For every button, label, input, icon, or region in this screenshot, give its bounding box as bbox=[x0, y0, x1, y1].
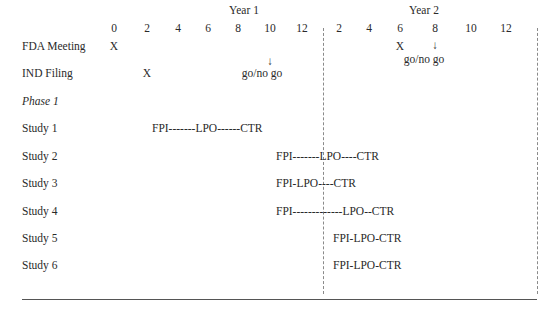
y1-tick-4: 4 bbox=[175, 23, 181, 35]
study-2-label: Study 2 bbox=[22, 151, 57, 163]
study-3-label: Study 3 bbox=[22, 178, 57, 190]
down-arrow-icon: ↓ bbox=[432, 40, 438, 52]
y2-tick-10: 10 bbox=[465, 23, 477, 35]
study-5-label: Study 5 bbox=[22, 233, 57, 245]
y2-tick-4: 4 bbox=[366, 23, 372, 35]
phase-1-heading: Phase 1 bbox=[22, 96, 59, 108]
fda-meeting-mark-y1: X bbox=[110, 41, 118, 53]
bottom-rule bbox=[22, 299, 537, 300]
year-end-line bbox=[537, 28, 538, 294]
study-4-timeline: FPI-------------LPO--CTR bbox=[276, 206, 394, 218]
down-arrow-icon: ↓ bbox=[267, 56, 273, 68]
study-1-timeline: FPI-------LPO------CTR bbox=[152, 123, 263, 135]
y2-tick-2: 2 bbox=[336, 23, 342, 35]
y1-tick-10: 10 bbox=[264, 23, 276, 35]
y2-tick-6: 6 bbox=[397, 23, 403, 35]
y2-tick-8: 8 bbox=[432, 23, 438, 35]
study-3-timeline: FPI-LPO----CTR bbox=[276, 178, 356, 190]
study-6-timeline: FPI-LPO-CTR bbox=[333, 260, 401, 272]
y1-tick-2: 2 bbox=[144, 23, 150, 35]
fda-meeting-mark-y2: X bbox=[396, 41, 404, 53]
y1-tick-6: 6 bbox=[205, 23, 211, 35]
fda-meeting-label: FDA Meeting bbox=[22, 41, 86, 53]
year2-header: Year 2 bbox=[409, 5, 439, 17]
study-2-timeline: FPI-------LPO----CTR bbox=[276, 151, 379, 163]
study-5-timeline: FPI-LPO-CTR bbox=[333, 233, 401, 245]
ind-filing-mark: X bbox=[143, 68, 151, 80]
go-no-go-y2: go/no go bbox=[404, 54, 445, 66]
study-6-label: Study 6 bbox=[22, 260, 57, 272]
y1-tick-8: 8 bbox=[235, 23, 241, 35]
study-1-label: Study 1 bbox=[22, 123, 57, 135]
year1-header: Year 1 bbox=[229, 5, 259, 17]
y1-tick-0: 0 bbox=[111, 23, 117, 35]
study-4-label: Study 4 bbox=[22, 206, 57, 218]
y1-tick-12: 12 bbox=[296, 23, 308, 35]
go-no-go-y1: go/no go bbox=[242, 68, 283, 80]
ind-filing-label: IND Filing bbox=[22, 68, 73, 80]
y2-tick-12: 12 bbox=[500, 23, 512, 35]
